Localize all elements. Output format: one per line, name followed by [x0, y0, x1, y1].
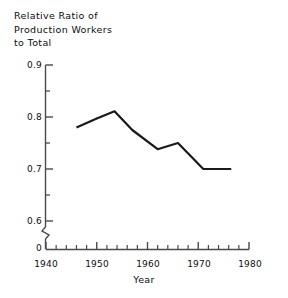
plot-area — [0, 0, 288, 298]
line-chart: Relative Ratio of Production Workers to … — [0, 0, 288, 298]
data-series-line — [76, 111, 231, 169]
y-axis-break-icon — [42, 227, 49, 239]
